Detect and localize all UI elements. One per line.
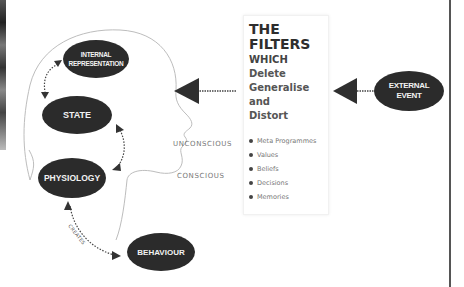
bullet-icon (249, 139, 253, 143)
filters-list-item: Values (249, 148, 316, 162)
filters-list-item: Beliefs (249, 162, 316, 176)
ir-state-dotted-arrow (44, 64, 58, 92)
node-label-line2: REPRESENTATION (69, 59, 124, 68)
node-internal-representation: INTERNAL REPRESENTATION (63, 40, 129, 78)
node-label-line1: INTERNAL (81, 50, 111, 59)
node-state: STATE (42, 96, 112, 134)
arrowhead-icon (112, 251, 121, 260)
bullet-icon (249, 167, 253, 171)
node-label-line2: EVENT (396, 91, 421, 101)
node-label: STATE (63, 110, 91, 120)
filters-sub-generalise: Generalise (249, 80, 309, 95)
arrowhead-icon (112, 163, 121, 171)
filters-sub-which: WHICH (249, 52, 288, 67)
filters-list: Meta Programmes Values Beliefs Decisions… (249, 134, 316, 204)
node-physiology: PHYSIOLOGY (38, 158, 106, 198)
node-label: PHYSIOLOGY (44, 173, 100, 183)
filters-list-item: Memories (249, 190, 316, 204)
bullet-icon (249, 181, 253, 185)
filters-list-item: Decisions (249, 176, 316, 190)
filters-sub-and: and (249, 94, 270, 109)
bullet-icon (249, 195, 253, 199)
big-left-arrowhead-icon (174, 78, 199, 104)
big-left-arrowhead-icon (333, 78, 357, 104)
arrowhead-icon (41, 92, 49, 99)
arrowhead-icon (64, 201, 72, 210)
arrowhead-icon (116, 124, 124, 133)
filters-sub-distort: Distort (249, 108, 288, 123)
node-label-line1: EXTERNAL (389, 81, 430, 91)
filters-list-item: Meta Programmes (249, 134, 316, 148)
node-external-event: EXTERNAL EVENT (374, 71, 444, 111)
filters-sub-delete: Delete (249, 66, 286, 81)
filters-title-line2: FILTERS (249, 37, 310, 52)
node-behaviour: BEHAVIOUR (127, 233, 195, 271)
bullet-icon (249, 153, 253, 157)
filters-title-line1: THE (249, 22, 310, 37)
state-physiology-dotted-arrow (118, 130, 124, 166)
filters-title: THE FILTERS (249, 22, 310, 52)
zone-label-conscious: CONSCIOUS (177, 172, 225, 180)
zone-label-unconscious: UNCONSCIOUS (173, 140, 232, 148)
node-label: BEHAVIOUR (137, 248, 184, 257)
